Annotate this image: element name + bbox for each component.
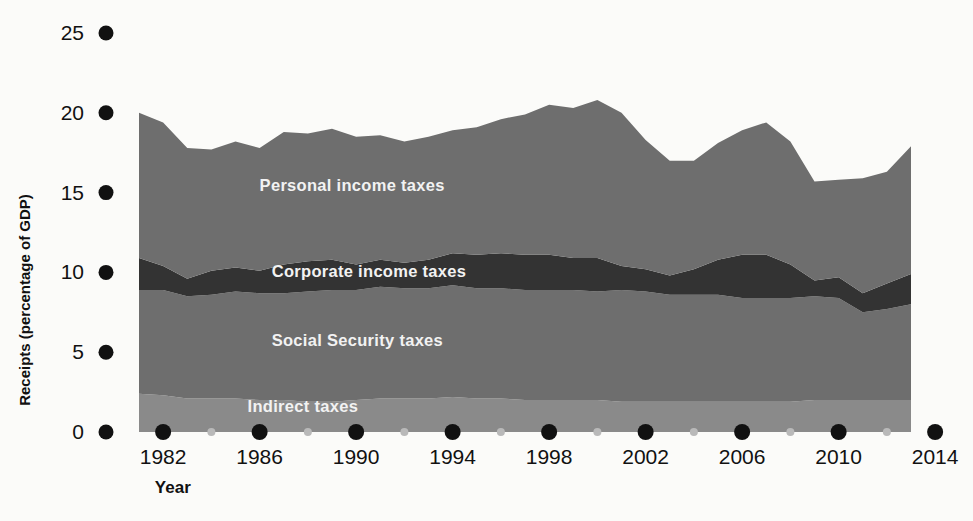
x-axis: 198219861990199419982002200620102014 xyxy=(140,424,959,468)
area-social-security-taxes xyxy=(139,285,911,402)
y-tick-dot xyxy=(99,265,114,280)
x-tick-label: 1986 xyxy=(236,445,283,468)
x-tick-dot-minor xyxy=(690,428,698,436)
x-tick-dot-major xyxy=(831,424,847,440)
x-tick-dot-major xyxy=(927,424,943,440)
x-tick-dot-minor xyxy=(400,428,408,436)
x-tick-dot-major xyxy=(252,424,268,440)
x-tick-label: 2006 xyxy=(719,445,766,468)
x-tick-dot-major xyxy=(734,424,750,440)
x-tick-dot-minor xyxy=(207,428,215,436)
y-tick-label: 5 xyxy=(72,340,84,363)
chart-container: Indirect taxesSocial Security taxesCorpo… xyxy=(0,0,973,521)
x-tick-dot-minor xyxy=(593,428,601,436)
x-tick-label: 1982 xyxy=(140,445,187,468)
x-tick-dot-minor xyxy=(304,428,312,436)
y-tick-label: 20 xyxy=(61,101,84,124)
y-tick-label: 0 xyxy=(72,420,84,443)
y-tick-dot xyxy=(99,105,114,120)
x-axis-title: Year xyxy=(155,478,191,497)
x-tick-dot-major xyxy=(348,424,364,440)
series-label-personal-income-taxes: Personal income taxes xyxy=(260,176,445,194)
stacked-area-chart: Indirect taxesSocial Security taxesCorpo… xyxy=(0,0,973,521)
x-tick-label: 1990 xyxy=(333,445,380,468)
x-tick-label: 2010 xyxy=(815,445,862,468)
series-label-corporate-income-taxes: Corporate income taxes xyxy=(272,262,467,280)
y-tick-dot xyxy=(99,26,114,41)
x-tick-label: 1998 xyxy=(526,445,573,468)
x-tick-dot-minor xyxy=(883,428,891,436)
series-label-social-security-taxes: Social Security taxes xyxy=(272,331,443,349)
series-label-indirect-taxes: Indirect taxes xyxy=(248,397,359,415)
y-axis-title: Receipts (percentage of GDP) xyxy=(16,194,33,406)
y-tick-dot xyxy=(99,425,114,440)
y-tick-dot xyxy=(99,185,114,200)
y-tick-label: 15 xyxy=(61,181,84,204)
x-tick-dot-major xyxy=(638,424,654,440)
y-tick-label: 10 xyxy=(61,260,84,283)
x-tick-label: 1994 xyxy=(429,445,476,468)
y-tick-dot xyxy=(99,345,114,360)
x-tick-label: 2014 xyxy=(912,445,959,468)
y-tick-label: 25 xyxy=(61,21,84,44)
x-tick-dot-minor xyxy=(497,428,505,436)
x-tick-dot-major xyxy=(445,424,461,440)
x-tick-dot-major xyxy=(541,424,557,440)
x-tick-dot-major xyxy=(155,424,171,440)
area-series-group xyxy=(139,100,911,432)
x-tick-label: 2002 xyxy=(622,445,669,468)
x-tick-dot-minor xyxy=(786,428,794,436)
